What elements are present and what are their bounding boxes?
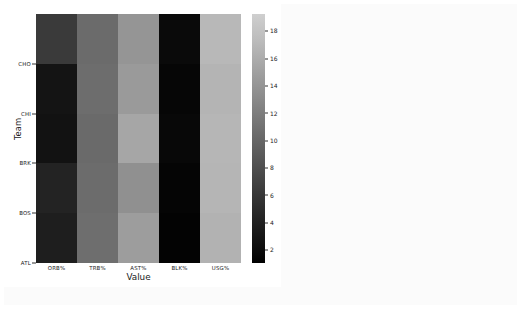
colorbar-tick-label: 16 — [265, 54, 278, 61]
colorbar-tick-label: 2 — [265, 246, 274, 253]
page-root: Team CHOCHIBRKBOSATL ORB%TRB%AST%BLK%USG… — [0, 0, 521, 309]
heatmap-cell — [159, 213, 200, 263]
heatmap-cell — [200, 14, 241, 64]
colorbar-tick-label: 10 — [265, 136, 278, 143]
colorbar-tick-mark — [265, 58, 268, 59]
heatmap-cell — [118, 163, 159, 213]
y-tick-label: ATL — [21, 260, 31, 266]
heatmap-cell — [159, 114, 200, 164]
colorbar-tick-label: 18 — [265, 27, 278, 34]
colorbar-tick-mark — [265, 113, 268, 114]
colorbar-tick-mark — [265, 86, 268, 87]
heatmap-figure: Team CHOCHIBRKBOSATL ORB%TRB%AST%BLK%USG… — [0, 0, 281, 287]
heatmap-cell — [77, 14, 118, 64]
colorbar-tick-label: 8 — [265, 164, 274, 171]
y-tick-label: BOS — [19, 210, 31, 216]
colorbar-tick-mark — [265, 195, 268, 196]
colorbar-tick-mark — [265, 140, 268, 141]
heatmap-cell — [159, 64, 200, 114]
colorbar-tick-label: 6 — [265, 191, 274, 198]
colorbar-gradient — [252, 14, 265, 263]
heatmap-cell — [77, 114, 118, 164]
heatmap-cell — [159, 163, 200, 213]
colorbar-ticks: 18161412108642 — [265, 14, 295, 263]
heatmap-cell — [200, 64, 241, 114]
heatmap-cell — [36, 14, 77, 64]
heatmap-column — [118, 14, 159, 263]
heatmap-cell — [118, 213, 159, 263]
x-axis-label: Value — [36, 272, 241, 282]
heatmap-cell — [36, 64, 77, 114]
colorbar-tick-label: 14 — [265, 82, 278, 89]
heatmap-cell — [200, 114, 241, 164]
heatmap-column — [77, 14, 118, 263]
heatmap-cell — [77, 163, 118, 213]
colorbar: 18161412108642 — [252, 14, 265, 263]
y-tick-label: BRK — [19, 160, 31, 166]
heatmap-cell — [118, 64, 159, 114]
heatmap-cell — [159, 14, 200, 64]
y-axis-ticks: CHOCHIBRKBOSATL — [0, 14, 36, 263]
y-tick-label: CHI — [21, 111, 31, 117]
colorbar-tick-label: 4 — [265, 218, 274, 225]
colorbar-tick-mark — [265, 250, 268, 251]
heatmap-cell — [118, 114, 159, 164]
heatmap-cell — [200, 213, 241, 263]
heatmap-cell — [36, 213, 77, 263]
y-tick-label: CHO — [18, 61, 31, 67]
colorbar-tick-label: 12 — [265, 109, 278, 116]
heatmap-column — [200, 14, 241, 263]
heatmap-cell — [36, 163, 77, 213]
heatmap-cell — [200, 163, 241, 213]
colorbar-tick-mark — [265, 222, 268, 223]
heatmap-column — [36, 14, 77, 263]
colorbar-tick-mark — [265, 168, 268, 169]
heatmap-cell — [118, 14, 159, 64]
heatmap-plot-area — [36, 14, 241, 263]
heatmap-cell — [77, 64, 118, 114]
heatmap-cell — [36, 114, 77, 164]
colorbar-tick-mark — [265, 31, 268, 32]
heatmap-cell — [77, 213, 118, 263]
heatmap-column — [159, 14, 200, 263]
